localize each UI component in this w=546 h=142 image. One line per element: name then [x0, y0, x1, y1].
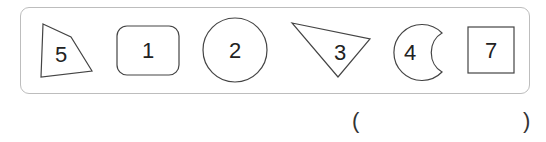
shape-label-2: 2 — [229, 38, 241, 63]
shape-label-4: 4 — [404, 40, 416, 65]
shape-label-3: 3 — [334, 40, 346, 65]
shape-label-7: 7 — [485, 38, 497, 63]
shapes-figure: 5 1 2 3 4 7 — [0, 0, 546, 142]
answer-open-paren: ( — [352, 108, 359, 134]
shape-label-5: 5 — [55, 42, 67, 67]
crescent-shape — [394, 25, 442, 81]
answer-close-paren: ) — [523, 108, 530, 134]
shape-label-1: 1 — [142, 38, 154, 63]
triangle-shape — [292, 23, 370, 77]
